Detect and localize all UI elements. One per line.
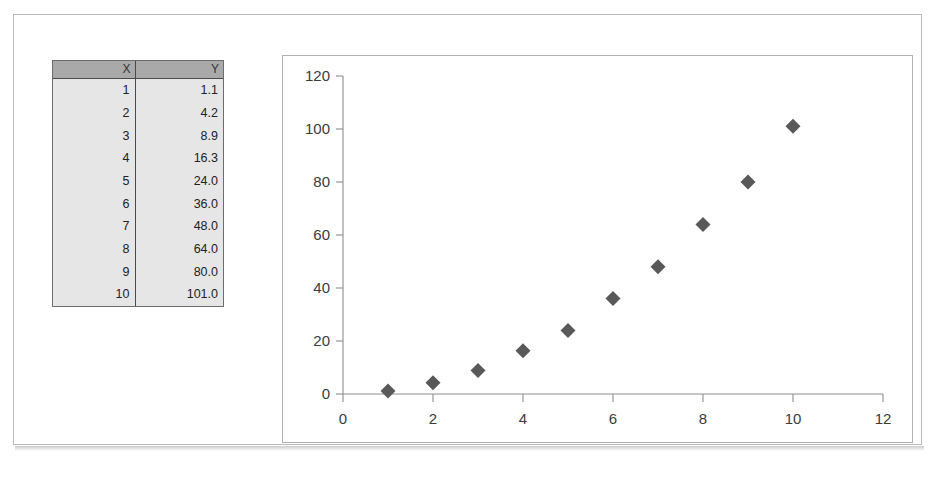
cell-y[interactable]: 1.1 — [135, 79, 223, 102]
data-point-marker[interactable] — [426, 375, 441, 390]
cell-x[interactable]: 7 — [53, 215, 135, 238]
column-header-x[interactable]: X — [53, 61, 135, 79]
table-header-row: X Y — [53, 61, 223, 79]
x-tick-label: 10 — [785, 410, 802, 427]
data-point-marker[interactable] — [696, 217, 711, 232]
table-row[interactable]: 3 8.9 — [53, 124, 223, 147]
data-point-marker[interactable] — [606, 291, 621, 306]
y-tick-label: 120 — [305, 67, 330, 84]
cell-x[interactable]: 6 — [53, 192, 135, 215]
page-root: X Y 1 1.1 2 4.2 3 8.9 — [0, 0, 942, 478]
data-point-marker[interactable] — [786, 119, 801, 134]
y-tick-label: 20 — [313, 332, 330, 349]
table-row[interactable]: 9 80.0 — [53, 261, 223, 284]
table-grid: X Y 1 1.1 2 4.2 3 8.9 — [53, 61, 223, 306]
cell-x[interactable]: 4 — [53, 147, 135, 170]
x-axis: 024681012 — [339, 394, 892, 427]
table-row[interactable]: 6 36.0 — [53, 192, 223, 215]
data-point-marker[interactable] — [561, 323, 576, 338]
table-row[interactable]: 1 1.1 — [53, 79, 223, 102]
cell-x[interactable]: 9 — [53, 261, 135, 284]
table-row[interactable]: 2 4.2 — [53, 102, 223, 125]
y-axis: 020406080100120 — [305, 67, 343, 402]
table-row[interactable]: 10 101.0 — [53, 283, 223, 306]
data-point-marker[interactable] — [381, 384, 396, 399]
x-tick-label: 0 — [339, 410, 347, 427]
cell-y[interactable]: 16.3 — [135, 147, 223, 170]
cell-y[interactable]: 101.0 — [135, 283, 223, 306]
cell-y[interactable]: 4.2 — [135, 102, 223, 125]
cell-x[interactable]: 8 — [53, 238, 135, 261]
cell-x[interactable]: 10 — [53, 283, 135, 306]
x-tick-label: 12 — [875, 410, 892, 427]
x-tick-label: 4 — [519, 410, 527, 427]
data-point-marker[interactable] — [516, 343, 531, 358]
chart-canvas: 020406080100120 024681012 — [283, 56, 914, 444]
table-row[interactable]: 5 24.0 — [53, 170, 223, 193]
page-drop-shadow — [15, 446, 924, 451]
y-tick-label: 100 — [305, 120, 330, 137]
table-header: X Y — [53, 61, 223, 79]
y-tick-label: 40 — [313, 279, 330, 296]
xy-data-table[interactable]: X Y 1 1.1 2 4.2 3 8.9 — [52, 60, 224, 307]
cell-y[interactable]: 8.9 — [135, 124, 223, 147]
cell-y[interactable]: 48.0 — [135, 215, 223, 238]
cell-y[interactable]: 36.0 — [135, 192, 223, 215]
x-tick-label: 6 — [609, 410, 617, 427]
x-tick-label: 8 — [699, 410, 707, 427]
cell-x[interactable]: 3 — [53, 124, 135, 147]
y-tick-label: 80 — [313, 173, 330, 190]
cell-y[interactable]: 24.0 — [135, 170, 223, 193]
table-body: 1 1.1 2 4.2 3 8.9 4 16.3 — [53, 79, 223, 307]
column-header-y[interactable]: Y — [135, 61, 223, 79]
scatter-chart[interactable]: 020406080100120 024681012 — [282, 55, 913, 443]
y-tick-label: 0 — [322, 385, 330, 402]
document-frame: X Y 1 1.1 2 4.2 3 8.9 — [13, 14, 922, 445]
data-point-marker[interactable] — [471, 363, 486, 378]
cell-y[interactable]: 64.0 — [135, 238, 223, 261]
table-row[interactable]: 8 64.0 — [53, 238, 223, 261]
data-point-marker[interactable] — [741, 175, 756, 190]
cell-x[interactable]: 5 — [53, 170, 135, 193]
table-row[interactable]: 7 48.0 — [53, 215, 223, 238]
x-tick-label: 2 — [429, 410, 437, 427]
cell-y[interactable]: 80.0 — [135, 261, 223, 284]
data-series-y[interactable] — [381, 119, 801, 399]
data-point-marker[interactable] — [651, 259, 666, 274]
cell-x[interactable]: 1 — [53, 79, 135, 102]
y-tick-label: 60 — [313, 226, 330, 243]
table-row[interactable]: 4 16.3 — [53, 147, 223, 170]
cell-x[interactable]: 2 — [53, 102, 135, 125]
